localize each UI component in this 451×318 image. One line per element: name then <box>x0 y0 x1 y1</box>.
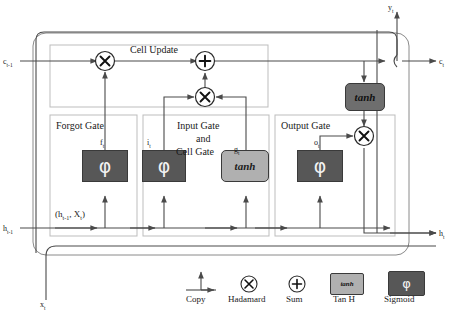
tanh-glyph: tanh <box>235 161 256 172</box>
circle-plus-icon <box>289 276 305 292</box>
hidden-out-sub: t <box>443 234 445 240</box>
legend-label-tanh: Tan H <box>333 294 355 304</box>
tanh-swatch-icon: tanh <box>330 273 364 295</box>
legend-label-hadamard: Hadamard <box>228 294 265 304</box>
input-gate-label-line1: Input Gate <box>177 120 220 131</box>
cell-in-sub: t-1 <box>7 62 13 68</box>
y-output-branch <box>36 32 397 253</box>
cell-tanh-block[interactable]: tanh <box>221 150 269 182</box>
cell-outer-boundary <box>33 33 409 255</box>
output-var-label: ot <box>314 138 320 149</box>
circle-times-icon <box>241 276 257 292</box>
tanh-glyph: tanh <box>355 92 376 103</box>
concat-close: ) <box>82 209 85 219</box>
sigmoid-swatch-icon: φ <box>388 271 425 296</box>
lstm-cell-diagram: φ φ tanh φ tanh Cell Update Forgot Gate … <box>0 0 451 318</box>
forget-hadamard-node <box>96 52 115 71</box>
cell-sum-node <box>196 52 215 71</box>
forget-var-label: ft <box>100 138 104 149</box>
output-gate-output-path <box>320 136 353 150</box>
legend-label-sum: Sum <box>286 294 303 304</box>
y-out-sub: t <box>392 8 394 14</box>
concat-open: (h <box>55 209 63 219</box>
copy-branch-icon <box>186 272 216 290</box>
cell-candidate-output-path <box>216 97 246 150</box>
hidden-in-sub: t-1 <box>7 229 13 235</box>
concat-mid: , X <box>69 209 80 219</box>
input-gate-label-line3: Cell Gate <box>176 146 214 157</box>
input-var-label: it <box>147 138 151 149</box>
cell-update-label: Cell Update <box>130 44 178 55</box>
hadamard-to-hidden-out <box>364 148 436 233</box>
forget-sigmoid-block[interactable]: φ <box>82 150 128 182</box>
x-input-label: xt <box>40 300 46 311</box>
cell-state-output-label: ct <box>439 57 444 68</box>
legend-label-copy: Copy <box>186 294 206 304</box>
input-hadamard-node <box>196 88 215 107</box>
output-gate-label: Output Gate <box>281 120 330 131</box>
concat-input-label: (ht-1, Xt) <box>55 209 85 221</box>
cell-state-input-label: ct-1 <box>3 57 13 68</box>
hidden-state-output-label: ht <box>439 229 445 240</box>
y-output-label: yt <box>388 3 394 14</box>
input-gate-label-line2: and <box>196 133 210 144</box>
sigmoid-glyph: φ <box>314 157 327 176</box>
legend-label-sigmoid: Sigmoid <box>384 294 415 304</box>
tanh-swatch-label: tanh <box>340 280 353 288</box>
hidden-state-input-label: ht-1 <box>3 224 13 235</box>
top-tanh-block[interactable]: tanh <box>345 83 385 111</box>
cell-out-sub: t <box>443 62 445 68</box>
forget-var-sub: t <box>103 143 105 149</box>
output-hadamard-node <box>355 127 374 146</box>
x-input-path <box>46 246 436 286</box>
sigmoid-swatch-label: φ <box>402 276 411 291</box>
input-var-sub: t <box>149 143 151 149</box>
output-var-sub: t <box>318 143 320 149</box>
forget-gate-label: Forgot Gate <box>56 120 104 131</box>
sigmoid-glyph: φ <box>158 157 171 176</box>
sigmoid-glyph: φ <box>99 157 112 176</box>
cell-candidate-var-label: gt <box>234 145 240 156</box>
output-sigmoid-block[interactable]: φ <box>297 150 343 182</box>
x-in-sub: t <box>44 305 46 311</box>
cell-candidate-var-sub: t <box>238 150 240 156</box>
